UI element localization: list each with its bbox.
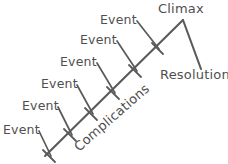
event-label: Event — [22, 100, 59, 113]
event-label: Event — [80, 34, 117, 47]
event-label: Event — [100, 14, 137, 27]
event-leader-line — [137, 21, 159, 49]
event-label: Event — [41, 78, 78, 91]
event-label: Event — [3, 124, 40, 137]
plot-diagram: Climax Resolution Complications Event Ev… — [0, 0, 228, 164]
event-label: Event — [60, 56, 97, 69]
falling-action-line — [183, 20, 201, 69]
event-leader-line — [77, 85, 93, 114]
event-leader-line — [97, 63, 115, 93]
resolution-label: Resolution — [160, 68, 228, 81]
event-leader-line — [117, 41, 137, 71]
climax-label: Climax — [158, 2, 204, 15]
